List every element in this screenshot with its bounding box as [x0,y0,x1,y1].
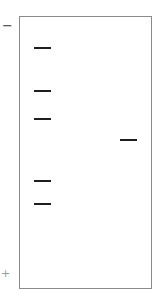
positive-electrode-label: + [1,268,10,279]
negative-electrode-label: − [2,19,13,32]
lane-1-band-4 [34,180,51,182]
lane-1-band-2 [34,90,51,92]
lane-1-band-1 [34,47,51,49]
lane-1-band-5 [34,203,51,205]
lane-2-band-1 [120,139,137,141]
gel-box [19,16,152,289]
lane-1-band-3 [34,118,51,120]
